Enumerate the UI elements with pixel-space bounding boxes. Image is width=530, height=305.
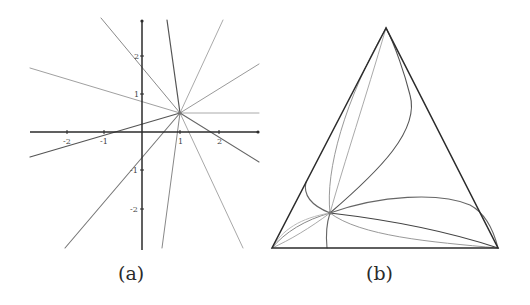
curve-to-bottom-right-lower-arc <box>330 213 498 248</box>
curve-to-left-edge-hook <box>305 182 330 213</box>
y-tick-label: 2 <box>134 52 139 61</box>
figure-canvas: -2 -1 1 2 2 1 -1 -2 <box>0 0 530 305</box>
interior-point <box>328 211 332 215</box>
caption-a: (a) <box>118 262 144 284</box>
x-tick-label: -2 <box>63 137 71 146</box>
curve-to-bottom-edge <box>326 213 330 248</box>
concurrent-point <box>178 111 182 115</box>
y-tick-label: -1 <box>130 166 138 175</box>
line-9 <box>30 68 180 113</box>
caption-b: (b) <box>366 262 393 284</box>
curve-to-bottom-right-straight <box>330 213 498 248</box>
figure: -2 -1 1 2 2 1 -1 -2 <box>0 0 530 305</box>
triangle-outline <box>272 28 498 248</box>
y-tick-label: 1 <box>134 90 139 99</box>
x-tick-label: 1 <box>178 137 183 146</box>
x-tick-label: 2 <box>217 137 222 146</box>
x-tick-label: -1 <box>100 137 108 146</box>
line-2 <box>30 113 180 157</box>
panel-a-plot: -2 -1 1 2 2 1 -1 -2 <box>30 18 260 250</box>
y-tick-label: -2 <box>130 205 138 214</box>
line-6 <box>180 20 223 113</box>
panel-b-plot <box>272 28 498 248</box>
